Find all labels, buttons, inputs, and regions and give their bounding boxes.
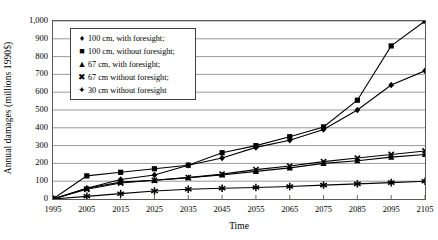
data-point-marker — [321, 124, 326, 129]
x-tick-label: 2105 — [405, 204, 438, 214]
legend-item-label: 100 cm, without foresight; — [88, 47, 175, 56]
legend-item: ✖67 cm without foresight; — [76, 71, 195, 84]
legend-item-label: 67 cm, with foresight; — [88, 60, 160, 69]
data-point-marker — [152, 166, 157, 171]
x-axis-tick-labels: 1995200520152025203520452055206520752085… — [0, 204, 438, 218]
data-point-marker — [219, 155, 225, 162]
data-point-marker — [84, 173, 89, 178]
y-tick-label: 200 — [14, 158, 48, 167]
y-tick-label: 700 — [14, 69, 48, 78]
diamond-marker-icon: ♦ — [76, 34, 88, 43]
chart-legend: ♦100 cm, with foresight;■100 cm, without… — [70, 28, 196, 100]
legend-item: ■100 cm, without foresight; — [76, 45, 195, 58]
data-point-marker — [422, 68, 425, 75]
data-point-marker — [84, 193, 91, 199]
y-tick-label: 300 — [14, 140, 48, 149]
chart-container: Annual damages (millions 1990$) 01002003… — [0, 0, 438, 240]
data-point-marker — [388, 82, 394, 89]
data-point-marker — [355, 98, 360, 103]
cross-marker-icon: ✖ — [76, 73, 88, 82]
legend-item: ♦100 cm, with foresight; — [76, 32, 195, 45]
y-tick-label: 500 — [14, 105, 48, 114]
y-tick-label: 800 — [14, 51, 48, 60]
data-point-marker — [253, 143, 258, 148]
legend-item-label: 30 cm without foresight — [88, 86, 166, 95]
y-tick-label: 1,000 — [14, 16, 48, 25]
triangle-marker-icon: ▲ — [76, 60, 88, 69]
series-3 — [53, 151, 425, 199]
data-point-marker — [219, 150, 224, 155]
legend-item: ✦30 cm without foresight — [76, 84, 195, 97]
data-point-marker — [186, 163, 191, 168]
legend-item-label: 100 cm, with foresight; — [88, 34, 164, 43]
series-5 — [53, 177, 425, 199]
legend-item: ▲67 cm, with foresight; — [76, 58, 195, 71]
y-tick-label: 400 — [14, 122, 48, 131]
legend-item-label: 67 cm without foresight; — [88, 73, 169, 82]
series-line — [53, 155, 425, 200]
data-point-marker — [422, 21, 425, 24]
series-line — [53, 151, 425, 199]
y-tick-label: 0 — [14, 194, 48, 203]
y-axis-title-text: Annual damages (millions 1990$) — [3, 41, 13, 174]
y-tick-label: 100 — [14, 176, 48, 185]
y-tick-label: 600 — [14, 87, 48, 96]
data-point-marker — [389, 43, 394, 48]
y-tick-label: 900 — [14, 33, 48, 42]
data-point-marker — [287, 134, 292, 139]
data-point-marker — [118, 170, 123, 175]
data-point-marker — [355, 107, 361, 114]
x-axis-title: Time — [52, 221, 426, 231]
star-marker-icon: ✦ — [76, 86, 88, 95]
square-marker-icon: ■ — [76, 47, 88, 56]
